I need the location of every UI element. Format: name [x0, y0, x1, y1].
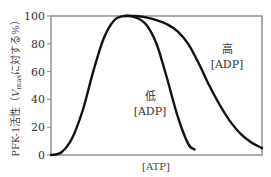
plot-frame — [51, 16, 262, 155]
y-axis-label-suffix: に対する%） — [9, 15, 21, 75]
y-tick-label-20: 20 — [31, 121, 45, 134]
y-axis-label-prefix: PFK-1活性（ — [9, 97, 21, 157]
x-axis-label: [ATP] — [142, 161, 170, 172]
y-tick-label-100: 100 — [24, 10, 45, 23]
high-adp-label-line2: [ADP] — [211, 58, 244, 71]
chart: 020406080100 低 [ADP] 高 [ADP] [ATP] PFK-1… — [0, 0, 271, 177]
y-axis-label: PFK-1活性（Vmaxに対する%） — [9, 15, 23, 157]
y-axis-label-sub: max — [15, 75, 23, 90]
y-tick-label-60: 60 — [31, 66, 45, 79]
high-adp-label-line1: 高 — [222, 42, 233, 56]
y-tick-label-80: 80 — [31, 38, 45, 51]
low-adp-label-line1: 低 — [145, 90, 156, 103]
curve-low-adp — [51, 16, 195, 155]
curves — [51, 16, 262, 155]
y-tick-label-40: 40 — [31, 93, 45, 106]
y-axis-ticks: 020406080100 — [24, 10, 51, 162]
low-adp-label-line2: [ADP] — [134, 105, 167, 118]
curve-high-adp — [125, 16, 262, 148]
y-tick-label-0: 0 — [38, 149, 45, 162]
